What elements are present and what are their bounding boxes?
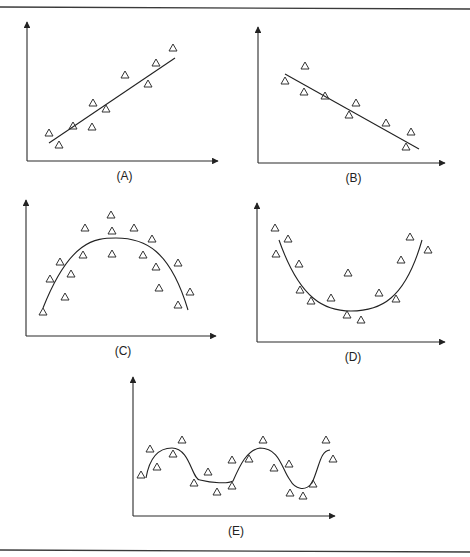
triangle-marker-icon — [327, 294, 335, 301]
scatter-patterns-figure: (A)(B)(C)(D)(E) — [0, 0, 470, 557]
triangle-marker-icon — [284, 235, 292, 242]
triangle-marker-icon — [344, 269, 352, 276]
triangle-marker-icon — [55, 141, 63, 148]
panel-label: (D) — [345, 350, 362, 364]
panel-c: (C) — [26, 200, 216, 358]
triangle-marker-icon — [343, 311, 351, 318]
triangle-marker-icon — [178, 436, 186, 443]
triangle-marker-icon — [67, 270, 75, 277]
triangle-marker-icon — [137, 471, 145, 478]
panel-label: (A) — [117, 169, 133, 183]
triangle-marker-icon — [397, 256, 405, 263]
triangle-marker-icon — [213, 488, 221, 495]
triangle-marker-icon — [108, 250, 116, 257]
triangle-marker-icon — [39, 308, 47, 315]
triangle-marker-icon — [190, 479, 198, 486]
top-rule — [0, 7, 470, 9]
triangle-marker-icon — [259, 436, 267, 443]
panel-e: (E) — [133, 377, 337, 538]
triangle-marker-icon — [228, 482, 236, 489]
triangle-marker-icon — [121, 71, 129, 78]
triangle-marker-icon — [153, 463, 161, 470]
panel-label: (E) — [228, 524, 244, 538]
panel-label: (C) — [115, 344, 132, 358]
triangle-marker-icon — [146, 445, 154, 452]
triangle-marker-icon — [272, 250, 280, 257]
triangle-marker-icon — [79, 251, 87, 258]
triangle-marker-icon — [61, 293, 69, 300]
triangle-marker-icon — [345, 111, 353, 118]
triangle-marker-icon — [300, 88, 308, 95]
triangle-marker-icon — [281, 77, 289, 84]
triangle-marker-icon — [139, 251, 147, 258]
triangle-marker-icon — [424, 246, 432, 253]
triangle-marker-icon — [108, 227, 116, 234]
triangle-marker-icon — [228, 456, 236, 463]
triangle-marker-icon — [299, 492, 307, 499]
triangle-marker-icon — [45, 129, 53, 136]
triangle-marker-icon — [56, 258, 64, 265]
triangle-marker-icon — [46, 275, 54, 282]
triangle-marker-icon — [155, 284, 163, 291]
panel-a: (A) — [27, 22, 218, 183]
triangle-marker-icon — [89, 99, 97, 106]
panel-d: (D) — [257, 203, 445, 364]
triangle-marker-icon — [144, 80, 152, 87]
panel-b: (B) — [258, 27, 445, 185]
triangle-marker-icon — [174, 259, 182, 266]
triangle-marker-icon — [130, 224, 138, 231]
triangle-marker-icon — [270, 464, 278, 471]
fit-line — [49, 58, 175, 143]
triangle-marker-icon — [375, 289, 383, 296]
triangle-marker-icon — [271, 224, 279, 231]
triangle-marker-icon — [148, 235, 156, 242]
triangle-marker-icon — [322, 436, 330, 443]
triangle-marker-icon — [174, 301, 182, 308]
panel-label: (B) — [346, 171, 362, 185]
triangle-marker-icon — [352, 99, 360, 106]
triangle-marker-icon — [169, 44, 177, 51]
fit-curve — [146, 448, 330, 488]
triangle-marker-icon — [81, 224, 89, 231]
bottom-rule — [0, 550, 470, 552]
triangle-marker-icon — [186, 288, 194, 295]
triangle-marker-icon — [169, 450, 177, 457]
triangle-marker-icon — [152, 59, 160, 66]
triangle-marker-icon — [285, 460, 293, 467]
triangle-marker-icon — [286, 489, 294, 496]
fit-line — [285, 74, 419, 149]
triangle-marker-icon — [301, 62, 309, 69]
triangle-marker-icon — [329, 455, 337, 462]
triangle-marker-icon — [407, 128, 415, 135]
triangle-marker-icon — [107, 211, 115, 218]
triangle-marker-icon — [357, 316, 365, 323]
fit-curve — [43, 238, 188, 310]
triangle-marker-icon — [295, 260, 303, 267]
triangle-marker-icon — [402, 143, 410, 150]
triangle-marker-icon — [152, 263, 160, 270]
triangle-marker-icon — [88, 123, 96, 130]
triangle-marker-icon — [382, 119, 390, 126]
triangle-marker-icon — [406, 233, 414, 240]
triangle-marker-icon — [204, 468, 212, 475]
